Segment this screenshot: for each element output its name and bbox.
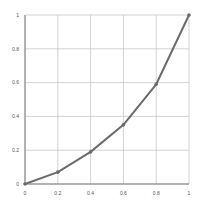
y-tick-label: 0.8	[12, 46, 19, 52]
x-tick-label: 0	[24, 190, 27, 196]
x-axis-ticks: 00.20.40.60.81	[24, 190, 191, 196]
data-point-marker	[154, 82, 158, 86]
data-series	[23, 13, 191, 186]
x-tick-label: 0.6	[120, 190, 127, 196]
y-axis-ticks: 00.20.40.60.81	[12, 12, 19, 187]
data-point-marker	[56, 170, 60, 174]
x-tick-label: 1	[188, 190, 191, 196]
y-tick-label: 0.2	[12, 147, 19, 153]
axes	[25, 15, 189, 184]
grid-lines	[25, 15, 189, 184]
data-point-marker	[89, 150, 93, 154]
y-tick-label: 0.6	[12, 79, 19, 85]
data-point-marker	[122, 123, 126, 127]
x-tick-label: 0.8	[153, 190, 160, 196]
y-tick-label: 1	[16, 12, 19, 18]
y-tick-label: 0.4	[12, 113, 19, 119]
series-line	[25, 15, 189, 184]
data-point-marker	[23, 182, 27, 186]
line-chart: 00.20.40.60.81 00.20.40.60.81	[0, 0, 204, 206]
data-point-marker	[187, 13, 191, 17]
y-tick-label: 0	[16, 181, 19, 187]
x-tick-label: 0.4	[87, 190, 94, 196]
x-tick-label: 0.2	[54, 190, 61, 196]
